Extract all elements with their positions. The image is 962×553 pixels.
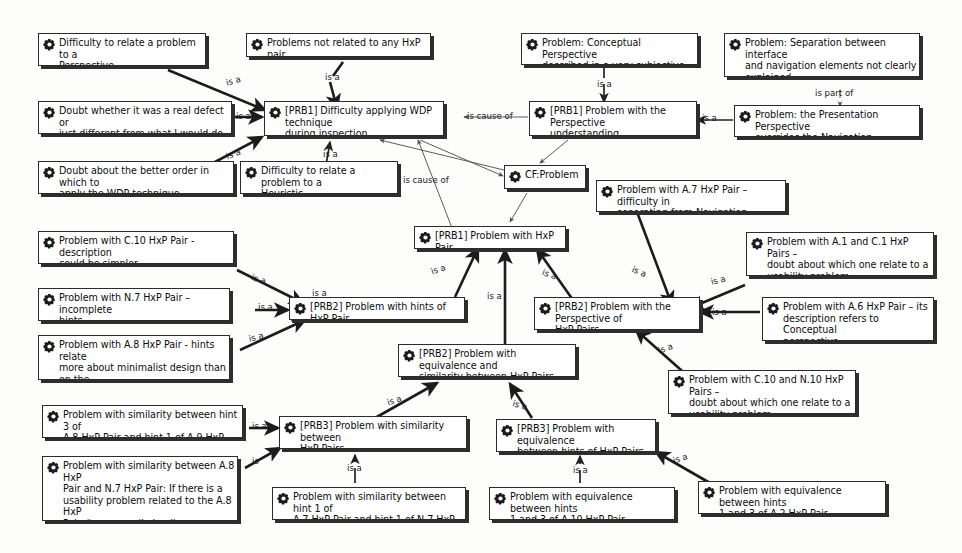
node-label: Problems not related to any HxP pair (267, 37, 428, 57)
node-conceptual-perspective-subjective[interactable]: Problem: Conceptual Perspective describe… (521, 33, 698, 65)
cog-icon (703, 486, 716, 499)
node-difficulty-relate-problem-perspective[interactable]: Difficulty to relate a problem to a Pers… (38, 33, 206, 66)
edge-label-is-a: is a (710, 274, 727, 286)
node-cf-problem[interactable]: CF:Problem (504, 165, 586, 189)
edge-label-is-a: is a (248, 331, 265, 344)
node-prb2-equivalence-similarity-hxp-pairs[interactable]: [PRB2] Problem with equivalence and simi… (398, 344, 576, 377)
node-label: [PRB1] Problem with HxP Pair (435, 230, 563, 249)
node-similarity-hint3-a8-hint1-a9[interactable]: Problem with similarity between hint 3 o… (42, 405, 243, 438)
node-similarity-a8-n7-implies-problem[interactable]: Problem with similarity between A.8 HxP … (42, 456, 238, 521)
edge-label-is-a: is a (487, 292, 502, 301)
node-label: Difficulty to relate a problem to a Heur… (261, 165, 395, 194)
node-prb1-problem-with-hxp-pair[interactable]: [PRB1] Problem with HxP Pair (414, 226, 566, 249)
cog-icon (673, 375, 686, 388)
cog-icon (43, 236, 56, 249)
node-prb3-equivalence-between-hints[interactable]: [PRB3] Problem with equivalence between … (496, 419, 656, 452)
edge-label-is-a: is a (712, 308, 727, 317)
node-label: Problem with similarity between hint 1 o… (293, 491, 463, 520)
edge-label-is-cause-of: is cause of (467, 112, 513, 121)
node-separation-interface-navigation[interactable]: Problem: Separation between interface an… (724, 33, 920, 77)
edge-label-is-a: is a (430, 263, 447, 276)
node-label: [PRB3] Problem with equivalence between … (517, 423, 653, 452)
node-label: [PRB1] Difficulty applying WDP technique… (285, 105, 441, 136)
node-doubt-real-defect[interactable]: Doubt whether it was a real defect or ju… (38, 101, 232, 134)
node-equivalence-hints-1-3-a10[interactable]: Problem with equivalence between hints 1… (489, 487, 675, 520)
cog-icon (403, 349, 416, 362)
node-label: Problem with A.6 HxP Pair – its descript… (783, 301, 931, 341)
edge-label-is-a: is a (657, 342, 674, 356)
node-similarity-hint1-a7-hint1-n7[interactable]: Problem with similarity between hint 1 o… (272, 487, 466, 520)
cog-icon (739, 110, 752, 123)
node-c10-n10-hxp-pairs-doubt[interactable]: Problem with C.10 and N.10 HxP Pairs – d… (668, 370, 856, 414)
edge-label-is-a: is a (630, 265, 647, 279)
node-prb2-problem-perspective-hxp-pairs[interactable]: [PRB2] Problem with the Perspective of H… (534, 297, 700, 330)
node-a1-c1-hxp-pairs-doubt[interactable]: Problem with A.1 and C.1 HxP Pairs – dou… (746, 232, 934, 276)
cog-icon (277, 492, 290, 505)
cog-icon (245, 166, 258, 179)
node-label: [PRB3] Problem with similarity between H… (300, 420, 464, 449)
node-label: Problem with similarity between hint 3 o… (63, 409, 240, 438)
node-label: Problem with N.7 HxP Pair – incomplete h… (59, 292, 227, 321)
node-label: Problem: the Presentation Perspective ov… (755, 109, 917, 137)
cog-icon (47, 461, 60, 474)
cog-icon (509, 170, 522, 183)
node-prb1-problem-perspective-understanding[interactable]: [PRB1] Problem with the Perspective unde… (529, 101, 697, 136)
cog-icon (526, 38, 539, 51)
node-label: Problem with equivalence between hints 1… (510, 491, 672, 520)
node-n7-hxp-pair-incomplete-hints[interactable]: Problem with N.7 HxP Pair – incomplete h… (38, 288, 230, 321)
node-c10-hxp-pair-description-simpler[interactable]: Problem with C.10 HxP Pair - description… (38, 231, 234, 264)
node-label: Difficulty to relate a problem to a Pers… (59, 37, 203, 66)
edge-label-is-a: is a (541, 268, 558, 282)
node-prb1-difficulty-applying-wdp[interactable]: [PRB1] Difficulty applying WDP technique… (264, 101, 444, 136)
node-label: Problem: Separation between interface an… (745, 37, 917, 77)
cog-icon (43, 38, 56, 51)
cog-icon (43, 340, 56, 353)
node-label: Problem with A.7 HxP Pair – difficulty i… (617, 184, 783, 212)
node-label: Problem with C.10 HxP Pair - description… (59, 235, 231, 264)
node-a7-hxp-pair-difficulty-separating[interactable]: Problem with A.7 HxP Pair – difficulty i… (596, 180, 786, 212)
edge-label-is-a: is a (258, 303, 273, 312)
node-doubt-better-order-wdp[interactable]: Doubt about the better order in which to… (38, 161, 234, 194)
cog-icon (43, 106, 56, 119)
cog-icon (751, 237, 764, 250)
cog-icon (47, 410, 60, 423)
node-prb3-similarity-between-hxp-pairs[interactable]: [PRB3] Problem with similarity between H… (279, 416, 467, 449)
cog-icon (43, 293, 56, 306)
node-a6-hxp-pair-conceptual-perspective[interactable]: Problem with A.6 HxP Pair – its descript… (762, 297, 934, 341)
edge-label-is-a: is a (672, 452, 689, 465)
edge-label-is-cause-of: is cause of (403, 176, 449, 185)
cog-icon (294, 302, 307, 315)
edge-label-is-a: is a (225, 75, 242, 88)
node-label: Problem with equivalence between hints 1… (719, 485, 883, 514)
cog-icon (501, 424, 514, 437)
node-problems-not-related-hxp-pair[interactable]: Problems not related to any HxP pair (246, 33, 431, 57)
node-label: [PRB2] Problem with equivalence and simi… (419, 348, 573, 377)
edge-label-is-a: is a (597, 80, 612, 89)
edge-label-is-a: is a (323, 150, 338, 159)
edge-label-is-a: is a (236, 112, 251, 121)
node-label: Doubt about the better order in which to… (59, 165, 231, 194)
node-equivalence-hints-1-3-a2[interactable]: Problem with equivalence between hints 1… (698, 481, 886, 514)
node-label: Doubt whether it was a real defect or ju… (59, 105, 229, 134)
edge-label-is-a: is a (573, 466, 588, 475)
node-label: Problem with similarity between A.8 HxP … (63, 460, 235, 521)
edge-label-is-a: is a (347, 464, 362, 473)
concept-map-canvas: Difficulty to relate a problem to a Pers… (0, 0, 962, 553)
edge-label-is-a: is a (225, 147, 242, 161)
node-label: [PRB2] Problem with hints of HxP Pair (310, 301, 462, 320)
edge-label-is-a: is a (386, 394, 403, 407)
node-prb2-problem-hints-hxp-pair[interactable]: [PRB2] Problem with hints of HxP Pair (289, 297, 465, 320)
cog-icon (539, 302, 552, 315)
node-label: [PRB1] Problem with the Perspective unde… (550, 105, 694, 136)
node-difficulty-relate-problem-heuristic[interactable]: Difficulty to relate a problem to a Heur… (240, 161, 398, 194)
cog-icon (419, 231, 432, 244)
node-label: [PRB2] Problem with the Perspective of H… (555, 301, 697, 330)
node-a8-hxp-pair-minimalist-design[interactable]: Problem with A.8 HxP Pair - hints relate… (38, 335, 230, 380)
node-presentation-overrides-navigation[interactable]: Problem: the Presentation Perspective ov… (734, 105, 920, 137)
node-label: Problem: Conceptual Perspective describe… (542, 37, 695, 65)
cog-icon (494, 492, 507, 505)
edge-label-is-a: is a (312, 289, 327, 298)
node-label: Problem with A.8 HxP Pair - hints relate… (59, 339, 227, 380)
edge-label-is-a: is a (252, 422, 267, 431)
node-label: CF:Problem (525, 169, 583, 181)
